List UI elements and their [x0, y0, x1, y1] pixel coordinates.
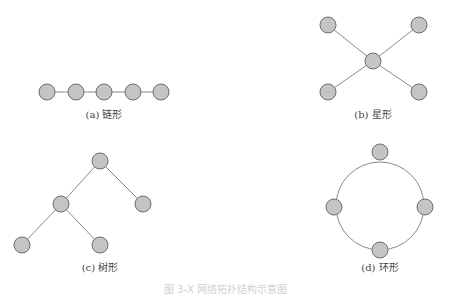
node — [92, 237, 108, 253]
edge — [328, 25, 373, 61]
node — [153, 84, 169, 100]
node — [92, 153, 108, 169]
edge — [61, 161, 100, 204]
panel-ring — [336, 162, 424, 250]
node — [326, 199, 342, 215]
ring-edge — [336, 162, 424, 250]
caption-tree: (c) 树形 — [82, 259, 119, 274]
node — [135, 196, 151, 212]
caption-ring: (d) 环形 — [361, 259, 398, 274]
node — [365, 53, 381, 69]
node — [96, 84, 112, 100]
node — [320, 84, 336, 100]
edge — [373, 25, 419, 61]
node — [125, 84, 141, 100]
edges-layer — [22, 25, 424, 250]
node — [14, 237, 30, 253]
node — [68, 84, 84, 100]
node — [411, 17, 427, 33]
caption-chain: (a) 链形 — [86, 106, 123, 121]
caption-star: (b) 星形 — [354, 106, 391, 121]
node — [372, 242, 388, 258]
figure-caption: 图 3-X 网络拓扑结构示意图 — [164, 281, 287, 296]
edge — [100, 161, 143, 204]
node — [417, 199, 433, 215]
panel-tree — [22, 161, 143, 245]
nodes-layer — [14, 17, 433, 258]
node — [411, 84, 427, 100]
node — [39, 84, 55, 100]
node — [53, 196, 69, 212]
node — [372, 144, 388, 160]
node — [320, 17, 336, 33]
